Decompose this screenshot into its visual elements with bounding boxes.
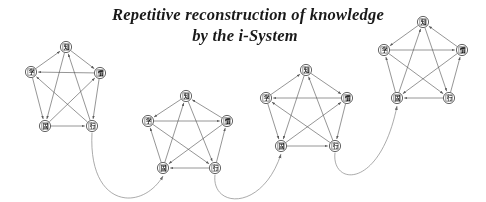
graph-edge (309, 77, 333, 141)
graph-edge (33, 78, 44, 119)
graph-edge (283, 76, 304, 139)
node-label: 慣 (97, 69, 104, 77)
node-label: 行 (89, 122, 96, 130)
connector-1-to-2 (92, 133, 163, 198)
connector-2-to-3 (215, 154, 281, 199)
graph-node[interactable]: 行 (329, 140, 340, 151)
graph-node[interactable]: 固 (391, 92, 402, 103)
graph-edge (429, 26, 457, 46)
graph-node[interactable]: 慣 (221, 115, 232, 126)
graph-edge (188, 102, 212, 162)
graph-edge (71, 51, 95, 69)
node-label: 慣 (344, 94, 351, 102)
graph-edge (36, 51, 60, 68)
graph-edge (165, 103, 184, 162)
graph-edge (154, 99, 181, 117)
graph-edge (390, 25, 418, 45)
graph-node[interactable]: 学 (378, 44, 389, 55)
graph-edge (389, 54, 443, 94)
graph-node[interactable]: 知 (417, 16, 428, 27)
graph-edge (169, 125, 222, 164)
graph-node[interactable]: 慣 (456, 44, 467, 55)
graph-edge (150, 128, 161, 162)
graph-node[interactable]: 知 (300, 64, 311, 75)
graph-node[interactable]: 行 (86, 120, 97, 131)
graph-edge (38, 72, 94, 73)
graph-node[interactable]: 学 (260, 92, 271, 103)
stage-1: 知慣行固学 (25, 41, 105, 131)
edge-group (150, 99, 225, 168)
graph-edge (192, 100, 222, 118)
graph-edge (425, 28, 447, 92)
edge-group (33, 51, 100, 126)
edge-group (386, 25, 460, 98)
graph-node[interactable]: 知 (180, 90, 191, 101)
graph-node[interactable]: 学 (142, 115, 153, 126)
graph-node[interactable]: 行 (443, 92, 454, 103)
graph-edge (337, 104, 346, 139)
graph-edge (311, 73, 341, 94)
stage-3: 知慣行固学 (260, 64, 352, 151)
graph-edge (271, 74, 300, 94)
graph-edge (403, 54, 457, 94)
node-label: 慣 (459, 46, 466, 54)
graph-node[interactable]: 学 (25, 66, 36, 77)
connectors-layer (92, 106, 397, 199)
graph-edge (93, 79, 99, 119)
node-label: 行 (446, 94, 453, 102)
graph-edge (216, 128, 225, 162)
graph-node[interactable]: 慣 (94, 67, 105, 78)
graph-edge (286, 102, 341, 142)
graph-node[interactable]: 固 (275, 140, 286, 151)
graph-edge (268, 104, 279, 139)
stage-4: 知慣行固学 (378, 16, 467, 103)
graph-node[interactable]: 固 (157, 162, 168, 173)
graph-edge (451, 57, 461, 92)
node-label: 行 (212, 164, 219, 172)
graph-edge (47, 53, 65, 119)
node-label: 行 (332, 142, 339, 150)
graph-node[interactable]: 慣 (341, 92, 352, 103)
stages-layer: 知慣行固学知慣行固学知慣行固学知慣行固学 (25, 16, 467, 173)
edge-group (268, 73, 346, 146)
graph-edge (36, 77, 87, 122)
graph-edge (386, 57, 396, 92)
node-label: 慣 (224, 117, 231, 125)
graph-edge (272, 102, 330, 142)
graph-edge (153, 124, 209, 163)
graph-node[interactable]: 行 (209, 162, 220, 173)
connector-3-to-4 (335, 106, 397, 175)
graph-edge (68, 54, 90, 120)
graph-node[interactable]: 固 (39, 120, 50, 131)
pentagon-chain-diagram: 知慣行固学知慣行固学知慣行固学知慣行固学 (0, 0, 486, 202)
stage-2: 知慣行固学 (142, 90, 232, 173)
graph-node[interactable]: 知 (60, 41, 71, 52)
